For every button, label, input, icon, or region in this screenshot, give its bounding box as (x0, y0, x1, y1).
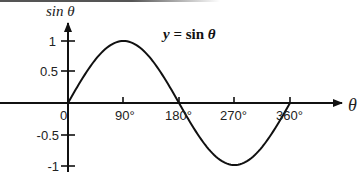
x-tick-label-90: 90° (115, 108, 135, 123)
x-axis-title: θ (348, 95, 357, 115)
y-axis-title: sin θ (46, 3, 75, 19)
formula-theta: θ (208, 26, 216, 42)
x-tick-label-270: 270° (220, 108, 247, 123)
formula-eq: = sin (170, 26, 208, 42)
y-tick-label-0.5: 0.5 (40, 64, 58, 79)
y-tick-label-1: 1 (49, 34, 56, 49)
x-tick-label-360: 360° (276, 108, 303, 123)
x-tick-label-0: 0 (60, 108, 67, 123)
chart-formula: y = sin θ (161, 26, 216, 42)
x-tick-label-180: 180° (165, 108, 192, 123)
formula-y: y (161, 26, 170, 42)
y-tick-label-neg-0.5: -0.5 (37, 128, 59, 143)
y-tick-label-neg-1: -1 (47, 159, 59, 174)
sine-chart: 0 90° 180° 270° 360° 1 0.5 -0.5 -1 sin θ… (0, 0, 363, 179)
